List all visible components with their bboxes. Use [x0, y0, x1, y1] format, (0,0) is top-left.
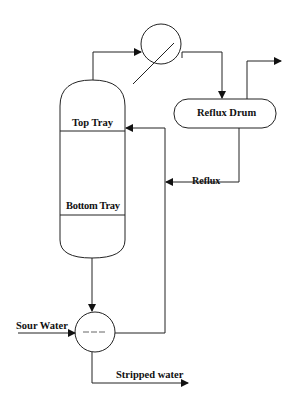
drum-vapor-outlet: [247, 61, 281, 99]
stripped-water-label: Stripped water: [116, 370, 183, 381]
reflux-line: [166, 128, 239, 182]
reflux-label: Reflux: [192, 176, 220, 186]
reflux-return-line: [126, 128, 165, 333]
condenser: [141, 24, 181, 64]
condensate-line: [182, 52, 222, 98]
overhead-vapor-line: [93, 52, 141, 80]
reflux-drum-label: Reflux Drum: [197, 108, 256, 119]
top-tray-label: Top Tray: [72, 118, 113, 129]
process-flow-diagram: [0, 0, 292, 404]
bottom-tray-label: Bottom Tray: [66, 201, 120, 212]
sour-water-label: Sour Water: [16, 321, 68, 332]
stripper-column: [60, 80, 125, 258]
condenser-cooling-line: [133, 43, 174, 84]
